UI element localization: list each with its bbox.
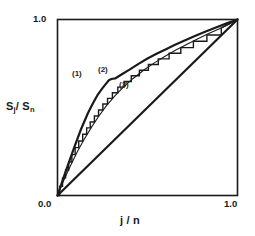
curve-diagonal: [58, 20, 238, 196]
x-axis-tick-right: 1.0: [224, 198, 237, 209]
y-axis-label-sub-n: n: [30, 105, 35, 114]
chart-figure: Sj/ Sn j / n 1.0 0.0 1.0 (1) (2) (3): [0, 0, 255, 236]
curve-annotation-1: (1): [72, 69, 82, 78]
y-axis-label: Sj/ Sn: [6, 100, 35, 114]
y-axis-label-S: S: [6, 100, 14, 112]
axis-tick-origin: 0.0: [38, 198, 51, 209]
curve-annotation-2: (2): [98, 65, 108, 74]
y-axis-label-slash-S: / S: [16, 100, 30, 112]
x-axis-label: j / n: [120, 214, 140, 226]
y-axis-tick-top: 1.0: [33, 13, 46, 24]
curve-annotation-3: (3): [119, 80, 129, 89]
curve-group: [58, 20, 238, 196]
